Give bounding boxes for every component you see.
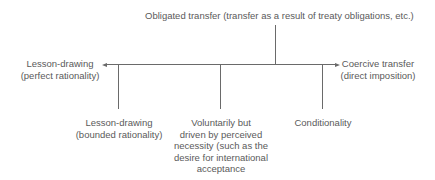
branch-line-1	[118, 64, 119, 109]
horizontal-axis-line	[106, 64, 336, 65]
branch-line-2	[220, 64, 221, 109]
left-end-line-1: Lesson-drawing	[18, 58, 102, 70]
right-end-line-1: Coercive transfer	[338, 58, 418, 70]
branch-2-line-4: desire for international	[170, 152, 272, 164]
conditionality-label: Conditionality	[288, 117, 358, 129]
branch-2-line-5: acceptance	[170, 163, 272, 175]
coercive-transfer-label: Coercive transfer (direct imposition)	[338, 58, 418, 81]
branch-2-line-3: necessity (such as the	[170, 140, 272, 152]
voluntarily-but-driven-label: Voluntarily but driven by perceived nece…	[170, 117, 272, 175]
branch-2-line-2: driven by perceived	[170, 129, 272, 141]
branch-1-line-2: (bounded rationality)	[72, 129, 166, 141]
lesson-drawing-bounded-label: Lesson-drawing (bounded rationality)	[72, 117, 166, 140]
left-end-line-2: (perfect rationality)	[18, 70, 102, 82]
branch-line-3	[322, 64, 323, 109]
lesson-drawing-perfect-label: Lesson-drawing (perfect rationality)	[18, 58, 102, 81]
top-connector-line	[275, 25, 276, 64]
right-end-line-2: (direct imposition)	[338, 70, 418, 82]
branch-2-line-1: Voluntarily but	[170, 117, 272, 129]
obligated-transfer-text: Obligated transfer (transfer as a result…	[145, 10, 407, 22]
arrow-left-icon	[102, 63, 107, 67]
obligated-transfer-label: Obligated transfer (transfer as a result…	[145, 10, 407, 22]
branch-3-line-1: Conditionality	[288, 117, 358, 129]
branch-1-line-1: Lesson-drawing	[72, 117, 166, 129]
